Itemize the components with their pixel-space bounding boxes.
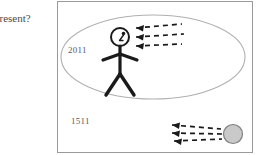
arrows-from-sphere: [172, 123, 222, 146]
stick-figure-leg-left: [106, 74, 120, 95]
stick-figure-arm-right: [120, 54, 137, 60]
caption-text: present?: [0, 10, 50, 26]
arrow-to-figure-1: [136, 24, 182, 32]
arrows-to-figure: [136, 24, 184, 50]
arrow-to-figure-2: [136, 34, 184, 41]
arrow-from-sphere-3: [174, 139, 222, 146]
arrow-from-sphere-2: [172, 131, 222, 138]
diagram-panel: 2011 1511: [57, 1, 253, 153]
era-label-lower: 1511: [71, 116, 90, 126]
diagram-canvas: [58, 2, 253, 153]
arrow-to-figure-3: [136, 43, 182, 50]
arrow-from-sphere-1: [172, 123, 221, 130]
diagram-screenshot: present?: [0, 0, 260, 155]
present-era-ellipse: [61, 15, 245, 99]
stick-figure-head: [111, 28, 129, 46]
stick-figure-arm-left: [103, 54, 120, 60]
stick-figure-leg-right: [120, 74, 134, 95]
era-label-upper: 2011: [68, 45, 87, 55]
stick-figure-observer: [103, 28, 137, 95]
gray-sphere: [224, 125, 243, 144]
